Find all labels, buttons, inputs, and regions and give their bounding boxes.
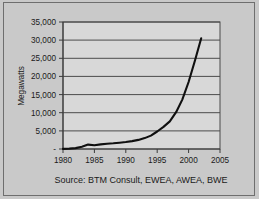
x-tick-label-1995: 1995 <box>148 156 167 165</box>
y-axis-ticks <box>59 22 63 149</box>
y-tick-label-15000: 15,000 <box>31 91 56 100</box>
x-axis-tick-labels: 1980 1985 1990 1995 2000 2005 <box>54 156 230 165</box>
y-tick-label-35000: 35,000 <box>31 18 56 27</box>
y-axis-title: Megawatts <box>17 66 26 106</box>
x-tick-label-1990: 1990 <box>117 156 136 165</box>
screenshot-root: 35,000 30,000 25,000 20,000 15,000 10,00… <box>0 0 259 199</box>
source-note: Source: BTM Consult, EWEA, AWEA, BWE <box>54 175 227 185</box>
y-tick-label-20000: 20,000 <box>31 72 56 81</box>
y-tick-label-25000: 25,000 <box>31 54 56 63</box>
y-tick-label-10000: 10,000 <box>31 109 56 118</box>
y-axis-tick-labels: 35,000 30,000 25,000 20,000 15,000 10,00… <box>31 18 56 154</box>
x-tick-label-1980: 1980 <box>54 156 73 165</box>
y-tick-label-5000: 5,000 <box>36 127 57 136</box>
x-axis-ticks <box>63 149 220 153</box>
y-tick-label-0: - <box>53 145 56 154</box>
x-tick-label-2000: 2000 <box>179 156 198 165</box>
figure-frame: 35,000 30,000 25,000 20,000 15,000 10,00… <box>3 2 255 196</box>
plot-area-background <box>63 22 220 149</box>
x-tick-label-1985: 1985 <box>85 156 104 165</box>
y-tick-label-30000: 30,000 <box>31 36 56 45</box>
x-tick-label-2005: 2005 <box>211 156 230 165</box>
wind-capacity-line-chart: 35,000 30,000 25,000 20,000 15,000 10,00… <box>4 3 254 195</box>
